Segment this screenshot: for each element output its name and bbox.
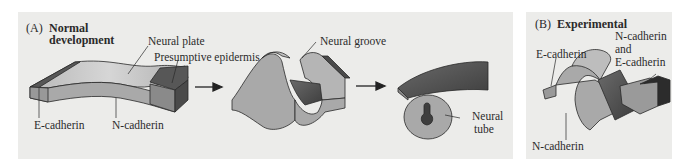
neural-plate-illustration (30, 61, 188, 112)
arrow-icon (356, 82, 385, 90)
label-n-cadherin-a: N-cadherin (112, 119, 164, 132)
label-neural-plate: Neural plate (148, 35, 205, 48)
label-presumptive-epidermis: Presumptive epidermis (154, 51, 260, 64)
panel-a-letter: (A) (26, 22, 43, 35)
label-e-cadherin-b: E-cadherin (536, 48, 586, 61)
label-n-and-e-line3: E-cadherin (615, 56, 665, 69)
label-n-and-e-line2: and (615, 43, 632, 56)
label-neural-tube-line2: tube (474, 123, 494, 136)
panel-a-title-line2: development (49, 34, 114, 47)
label-e-cadherin-a: E-cadherin (34, 119, 84, 132)
panel-b-letter: (B) (535, 18, 551, 31)
label-n-and-e-line1: N-cadherin (615, 30, 667, 43)
label-neural-groove: Neural groove (320, 35, 386, 48)
arrow-icon (195, 83, 222, 91)
label-neural-tube-line1: Neural (472, 110, 503, 123)
label-n-cadherin-b: N-cadherin (532, 140, 584, 153)
